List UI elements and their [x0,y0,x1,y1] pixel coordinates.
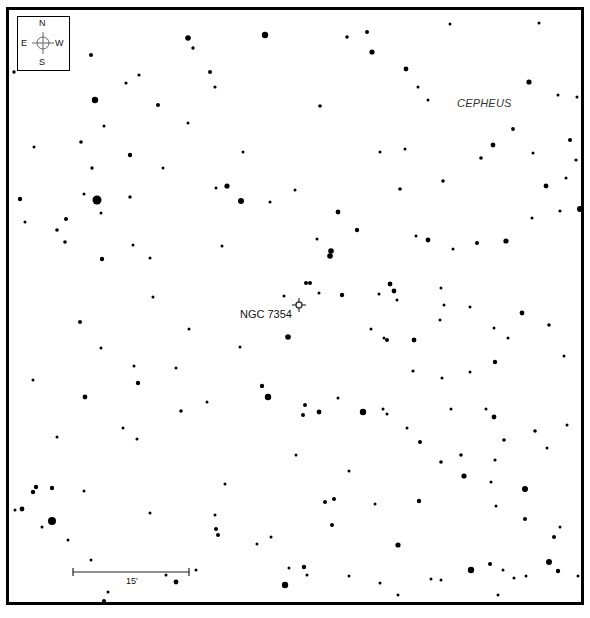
compass-north-label: N [39,19,46,28]
star [20,507,25,512]
star [216,533,220,537]
star [404,67,409,72]
star [34,485,38,489]
star [318,292,321,295]
star [332,497,336,501]
star [318,104,322,108]
star [100,257,104,261]
star [24,221,27,224]
star [386,413,389,416]
compass-west-label: W [55,39,64,48]
star [427,99,430,102]
star [308,281,312,285]
star [136,438,139,441]
star [396,299,399,302]
star [260,384,264,388]
star [32,379,35,382]
star [369,49,374,54]
star [83,490,86,493]
star [179,409,183,413]
compass-south-label: S [39,58,45,67]
star [100,347,103,350]
star [379,151,382,154]
star [502,438,506,442]
star [128,195,131,198]
star [576,96,579,99]
star [265,394,271,400]
star [107,591,110,594]
star [33,146,36,149]
star [502,569,505,572]
star [304,281,308,285]
star [174,580,179,585]
star [348,470,351,473]
star [469,306,472,309]
star [558,209,561,212]
scale-bar-label: 15' [126,576,138,586]
star [565,177,568,180]
star [103,125,106,128]
star [133,365,136,368]
star [365,30,369,34]
star [152,296,155,299]
star [294,189,297,192]
star [493,327,496,330]
star [195,569,198,572]
star [511,127,515,131]
star [397,594,400,597]
star [559,526,562,529]
star [78,320,82,324]
star [531,217,534,220]
star [379,582,382,585]
star [526,79,531,84]
star [382,408,385,411]
star [520,311,525,316]
star [295,454,298,457]
star [370,328,373,331]
star [574,158,577,161]
star [439,319,442,322]
star [378,293,381,296]
star [124,81,127,84]
star [56,436,59,439]
star [330,523,334,527]
star [18,197,22,201]
compass-rose: N S E W [17,16,70,71]
star [532,152,535,155]
star [262,32,268,38]
star [316,238,319,241]
star [538,22,541,25]
star [468,567,474,573]
star [162,167,165,170]
star [404,148,407,151]
star [348,575,351,578]
star [191,46,194,49]
star [175,367,178,370]
star [92,97,98,103]
star [497,594,500,597]
star [395,542,400,547]
star [256,543,259,546]
star [156,103,160,107]
star [406,427,409,430]
star [102,599,106,603]
star [89,53,93,57]
star [450,408,453,411]
star [461,473,466,478]
star [360,409,366,415]
star [238,198,244,204]
star [388,282,393,287]
star [328,248,334,254]
star [417,86,420,89]
ngc-target-marker-icon[interactable] [292,298,306,312]
star [546,559,552,565]
star [426,238,431,243]
star [136,381,140,385]
star [525,575,528,578]
star [503,238,508,243]
star [544,184,549,189]
star [282,582,288,588]
star [507,337,510,340]
star [336,210,341,215]
star [301,413,305,417]
